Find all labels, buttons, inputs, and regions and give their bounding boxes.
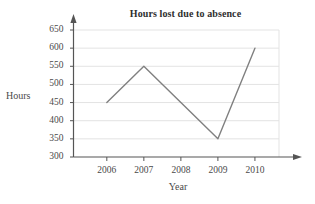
x-tick-label: 2006	[87, 166, 127, 176]
x-tick-label: 2008	[161, 166, 201, 176]
x-tick-label: 2009	[198, 166, 238, 176]
gridlines	[74, 30, 280, 139]
y-axis-arrowhead	[70, 14, 76, 23]
y-tick-label: 650	[30, 25, 64, 35]
x-axis-arrowhead	[293, 154, 302, 160]
y-tick-label: 550	[30, 61, 64, 71]
x-axis-ticks	[107, 157, 255, 161]
y-tick-label: 300	[30, 152, 64, 162]
y-tick-label: 500	[30, 79, 64, 89]
data-series-line	[107, 48, 255, 139]
y-tick-label: 600	[30, 43, 64, 53]
y-tick-label: 400	[30, 116, 64, 126]
y-tick-label: 350	[30, 134, 64, 144]
x-tick-label: 2007	[124, 166, 164, 176]
line-chart: Hours lost due to absence Hours Year 300…	[0, 0, 315, 204]
x-tick-label: 2010	[235, 166, 275, 176]
y-tick-label: 450	[30, 98, 64, 108]
